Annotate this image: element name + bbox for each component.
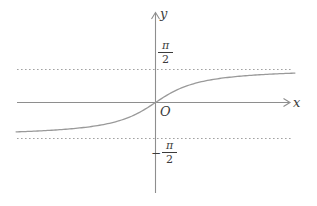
fraction-numerator-pi: π	[162, 39, 169, 52]
pi-over-2-fraction: π 2	[162, 139, 177, 166]
fraction-numerator-pi: π	[166, 139, 173, 152]
pi-over-2-fraction: π 2	[158, 39, 173, 66]
plot-canvas	[0, 0, 317, 206]
fraction-denominator-2: 2	[162, 152, 177, 166]
minus-sign: −	[151, 147, 161, 159]
fraction-denominator-2: 2	[158, 52, 173, 66]
tick-label-pi-over-2: π 2	[158, 39, 173, 66]
x-axis-label: x	[293, 96, 300, 109]
origin-label: O	[160, 105, 171, 118]
arctan-function-plot: y x O π 2 − π 2	[0, 0, 317, 206]
tick-label-minus-pi-over-2: − π 2	[151, 139, 177, 166]
y-axis-label: y	[160, 7, 167, 20]
